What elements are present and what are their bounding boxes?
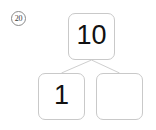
number-bond-worksheet: 20 10 1 xyxy=(0,0,156,130)
connector-line-right xyxy=(92,60,120,73)
number-bond-whole-value: 10 xyxy=(76,22,106,49)
number-bond-part-box-1[interactable]: 1 xyxy=(38,73,85,120)
problem-number-label: 20 xyxy=(15,15,22,23)
problem-number-badge: 20 xyxy=(11,11,26,26)
number-bond-part-box-2[interactable] xyxy=(96,73,143,120)
number-bond-whole-box[interactable]: 10 xyxy=(68,13,115,60)
number-bond-part-value-1: 1 xyxy=(54,82,69,109)
connector-line-left xyxy=(62,60,92,73)
